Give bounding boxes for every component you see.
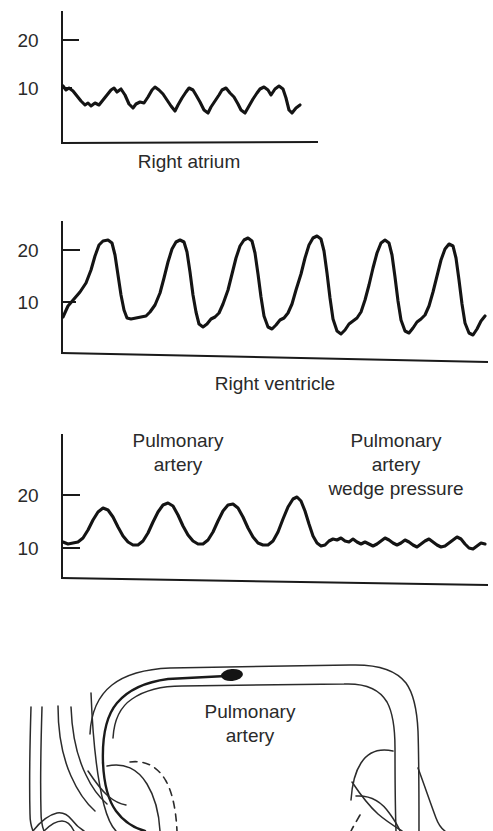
wedge-label-line3: wedge pressure — [327, 478, 463, 499]
x-axis-line — [62, 578, 487, 585]
anatomy-label-line2: artery — [226, 725, 275, 746]
pa-label-line1: Pulmonary — [133, 430, 224, 451]
y-tick-label-20: 20 — [17, 485, 38, 506]
catheter-balloon-tip — [221, 668, 244, 682]
aortic-arch-right — [351, 750, 393, 800]
x-axis-line — [62, 353, 487, 362]
superior-vena-cava — [30, 707, 33, 831]
panel-right-atrium: 20 10 Right atrium — [0, 0, 493, 200]
right-ventricle-trace — [63, 236, 485, 335]
y-tick-label-10: 10 — [17, 292, 38, 313]
left-heart-dashed-detail — [351, 815, 360, 831]
panel-caption-right-atrium: Right atrium — [138, 151, 240, 172]
right-ventricle-outline — [107, 765, 160, 831]
pa-label-line2: artery — [154, 454, 203, 475]
y-tick-label-20: 20 — [17, 240, 38, 261]
pulmonary-artery-chart: 20 10 Pulmonary artery Pulmonary artery … — [0, 405, 493, 605]
panel-anatomy-diagram: Pulmonary artery — [0, 600, 493, 831]
y-tick-label-20: 20 — [17, 30, 38, 51]
x-axis-line — [62, 142, 317, 143]
panel-right-ventricle: 20 10 Right ventricle — [0, 200, 493, 405]
y-tick-label-10: 10 — [17, 78, 38, 99]
atrial-floor-inner — [44, 821, 74, 831]
panel-caption-right-ventricle: Right ventricle — [215, 373, 335, 394]
wedge-label-line1: Pulmonary — [351, 430, 442, 451]
pulmonary-artery-trace — [63, 497, 485, 549]
right-atrium-chart: 20 10 Right atrium — [0, 0, 493, 200]
heart-catheter-diagram: Pulmonary artery — [0, 600, 493, 831]
left-heart-border — [418, 768, 445, 831]
right-ventricle-chart: 20 10 Right ventricle — [0, 200, 493, 405]
panel-pulmonary-artery: 20 10 Pulmonary artery Pulmonary artery … — [0, 405, 493, 605]
right-atrium-trace — [63, 86, 300, 113]
y-tick-label-10: 10 — [17, 538, 38, 559]
wedge-label-line2: artery — [372, 454, 421, 475]
pressure-waveform-figure: 20 10 Right atrium 20 10 Right ventricle — [0, 0, 493, 831]
right-atrium-inflow-wall — [58, 706, 95, 811]
anatomy-label-line1: Pulmonary — [205, 701, 296, 722]
superior-vena-cava-inner — [41, 707, 44, 831]
